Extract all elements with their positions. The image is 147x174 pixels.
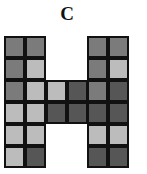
grid-cell	[25, 124, 46, 146]
grid-cell	[4, 80, 25, 102]
grid-cell	[4, 124, 25, 146]
grid-cell	[108, 146, 129, 168]
grid-cell	[87, 124, 108, 146]
grid-cell	[46, 80, 67, 102]
grid-cell	[4, 58, 25, 80]
grid-cell	[67, 80, 88, 102]
grid-cell	[108, 102, 129, 124]
grid-cell	[108, 58, 129, 80]
grid-cell	[25, 58, 46, 80]
grid-cell	[25, 36, 46, 58]
grid-cell	[87, 80, 108, 102]
grid-cell	[108, 80, 129, 102]
grid-cell	[67, 102, 88, 124]
grid-cell	[25, 102, 46, 124]
grid-cell	[108, 124, 129, 146]
grid-cell	[87, 102, 108, 124]
grid-cell	[87, 58, 108, 80]
grid-cell	[25, 146, 46, 168]
grid-cell	[46, 102, 67, 124]
grid-cell	[4, 102, 25, 124]
grid-cell	[4, 146, 25, 168]
grid-cell	[108, 36, 129, 58]
grid-cell	[4, 36, 25, 58]
grid-cell	[87, 36, 108, 58]
grid-cell	[25, 80, 46, 102]
grid-cell	[87, 146, 108, 168]
panel-label: C	[0, 3, 134, 25]
